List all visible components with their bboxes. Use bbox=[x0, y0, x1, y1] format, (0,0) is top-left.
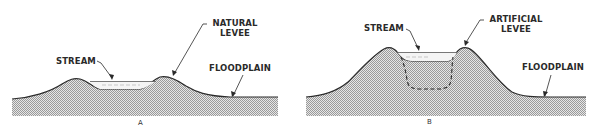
natural-levee-label-line1: NATURAL bbox=[208, 18, 262, 28]
diagram-panel-artificial-levee: STREAM ARTIFICIAL LEVEE FLOODPLAIN B bbox=[300, 0, 601, 129]
levee-leader bbox=[174, 24, 207, 74]
panel-caption-b: B bbox=[427, 118, 432, 126]
floodplain-label: FLOODPLAIN bbox=[209, 63, 271, 73]
artificial-levee-label: ARTIFICIAL LEVEE bbox=[486, 14, 546, 34]
artificial-levee-label-line2: LEVEE bbox=[486, 24, 546, 34]
panel-caption-a: A bbox=[138, 119, 143, 127]
artificial-levee-label-line1: ARTIFICIAL bbox=[486, 14, 546, 24]
levee-leader bbox=[465, 20, 484, 44]
natural-levee-label: NATURAL LEVEE bbox=[208, 18, 262, 38]
stream-label: STREAM bbox=[364, 23, 404, 33]
stream-label: STREAM bbox=[56, 56, 96, 66]
diagram-panel-natural-levee: STREAM NATURAL LEVEE FLOODPLAIN A bbox=[0, 0, 300, 129]
stream-leader bbox=[406, 29, 418, 48]
natural-levee-label-line2: LEVEE bbox=[208, 28, 262, 38]
floodplain-label: FLOODPLAIN bbox=[522, 62, 584, 72]
